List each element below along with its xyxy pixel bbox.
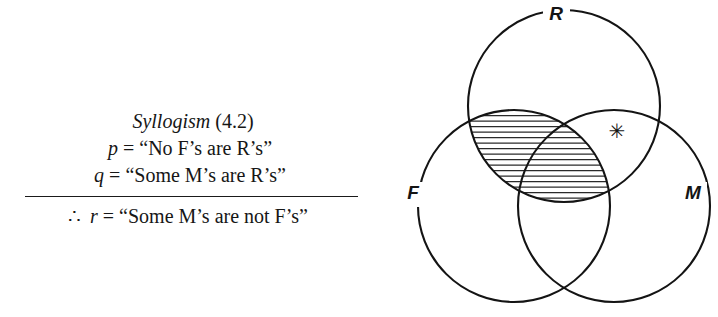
figure-page: Syllogism (4.2) p = “No F’s are R’s” q =… — [0, 0, 718, 317]
syllogism-divider-rule — [25, 196, 358, 197]
premise-1-equals: = — [123, 137, 134, 159]
asterisk-marker-icon: ✳ — [609, 120, 626, 142]
venn-circle-R — [468, 10, 660, 202]
conclusion-statement: “Some M’s are not F’s” — [119, 205, 308, 227]
premise-2-symbol: q — [94, 164, 104, 186]
venn-label-R: R — [549, 3, 563, 24]
premise-1-line: p = “No F’s are R’s” — [0, 135, 380, 162]
syllogism-title-word: Syllogism — [132, 110, 210, 132]
premise-2-equals: = — [109, 164, 120, 186]
syllogism-title-number: (4.2) — [215, 110, 253, 132]
shaded-region-f-intersect-r — [414, 116, 664, 199]
premise-2-statement: “Some M’s are R’s” — [125, 164, 286, 186]
premise-1-symbol: p — [108, 137, 118, 159]
conclusion-equals: = — [103, 205, 114, 227]
venn-label-F: F — [407, 182, 420, 203]
therefore-icon: ∴ — [68, 205, 85, 227]
venn-diagram: R F M ✳ — [380, 0, 718, 317]
syllogism-block: Syllogism (4.2) p = “No F’s are R’s” q =… — [0, 108, 380, 230]
venn-label-M: M — [685, 182, 702, 203]
syllogism-divider-wrap — [0, 189, 380, 203]
syllogism-title-line: Syllogism (4.2) — [0, 108, 380, 135]
conclusion-symbol: r — [90, 205, 98, 227]
hatch-lines — [414, 116, 664, 199]
premise-1-statement: “No F’s are R’s” — [139, 137, 272, 159]
venn-diagram-svg: R F M ✳ — [380, 0, 718, 317]
venn-circle-F — [418, 110, 610, 302]
conclusion-line: ∴ r = “Some M’s are not F’s” — [0, 203, 380, 230]
premise-2-line: q = “Some M’s are R’s” — [0, 162, 380, 189]
